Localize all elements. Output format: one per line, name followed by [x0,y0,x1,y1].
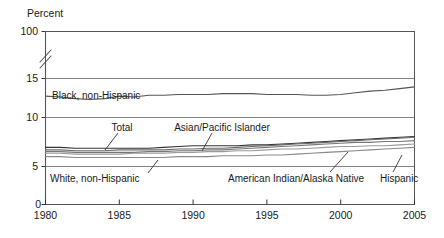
x-tick-label-1985: 1985 [108,209,132,221]
chart-container: Percent 100 15 10 5 0 1980 1985 1990 199… [0,0,444,238]
y-tick-label-5: 5 [32,160,38,172]
x-tick-label-2000: 2000 [329,209,353,221]
x-tick-label-1995: 1995 [255,209,279,221]
y-axis-title: Percent [27,7,63,19]
x-tick-label-2005: 2005 [403,209,427,221]
leader-line-american-indian [330,152,348,172]
y-tick-label-15: 15 [26,72,38,84]
series-label-hispanic: Hispanic [380,173,418,184]
y-tick-label-10: 10 [26,111,38,123]
series-label-white-non-hispanic: White, non-Hispanic [50,173,139,184]
leader-line-hispanic [393,155,402,172]
y-tick-label-100: 100 [20,25,38,37]
series-label-total: Total [111,122,132,133]
series-label-american-indian-alaska-native: American Indian/Alaska Native [228,173,365,184]
leader-line-total [105,133,118,150]
line-chart: Percent 100 15 10 5 0 1980 1985 1990 199… [0,0,444,238]
series-label-black-non-hispanic: Black, non-Hispanic [52,90,140,101]
x-tick-label-1990: 1990 [181,209,205,221]
x-tick-marks [46,200,415,205]
series-label-asian-pacific-islander: Asian/Pacific Islander [174,122,270,133]
x-tick-label-1980: 1980 [34,209,58,221]
